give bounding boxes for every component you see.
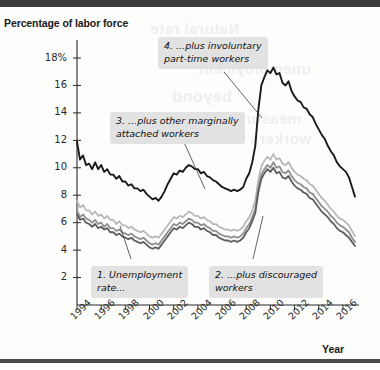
annotation-leader-line — [183, 140, 205, 189]
y-tick-label: 12 — [27, 134, 67, 145]
annotation-callout-4: 4. ...plus involuntary part-time workers — [158, 37, 268, 69]
y-tick-label: 18% — [27, 52, 67, 63]
y-tick-label: 6 — [27, 216, 67, 227]
y-tick-label: 2 — [27, 271, 67, 282]
annotation-callout-2: 2. ...plus discouraged workers — [209, 266, 323, 298]
y-tick-label: 10 — [27, 161, 67, 172]
y-tick-label: 8 — [27, 189, 67, 200]
y-tick-label: 16 — [27, 79, 67, 90]
page-margin-bottom — [0, 363, 380, 370]
annotation-callout-3: 3. ...plus other marginally attached wor… — [110, 112, 245, 144]
y-tick-label: 14 — [27, 106, 67, 117]
series-line-u3 — [77, 168, 355, 249]
annotation-callout-1: 1. Unemployment rate... — [91, 266, 188, 298]
y-tick-label: 4 — [27, 244, 67, 255]
annotation-leader-line — [120, 226, 131, 259]
series-line-u4 — [77, 162, 355, 244]
figure-container: Natural rate unemployment beyond measure… — [0, 0, 380, 370]
annotation-leader-line — [253, 216, 263, 259]
